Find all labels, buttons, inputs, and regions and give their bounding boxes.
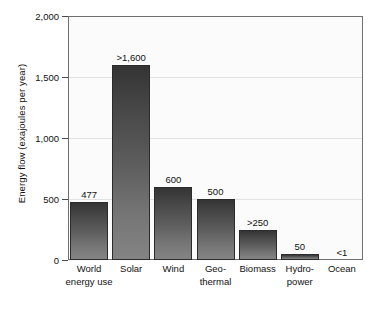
y-axis-tick	[62, 138, 68, 139]
gridline	[69, 77, 362, 78]
y-axis-tick	[62, 77, 68, 78]
x-axis-label-line: energy use	[64, 276, 114, 289]
x-axis-label-line: Ocean	[317, 263, 367, 276]
x-axis-label-line: thermal	[190, 276, 240, 289]
y-axis-tick-label: 1,500	[0, 72, 59, 83]
y-axis-tick-label: 0	[0, 255, 59, 266]
y-axis-tick	[62, 199, 68, 200]
plot-area	[68, 16, 363, 260]
y-axis-tick	[62, 260, 68, 261]
y-axis-tick	[62, 16, 68, 17]
y-axis-tick-label: 1,000	[0, 133, 59, 144]
gridline	[69, 199, 362, 200]
x-axis-label-line: power	[275, 276, 325, 289]
bar-chart: Energy flow (exajoules per year) 05001,0…	[0, 0, 375, 313]
gridline	[69, 138, 362, 139]
x-axis-label: Ocean	[317, 263, 367, 276]
y-axis-tick-label: 2,000	[0, 11, 59, 22]
y-axis-tick-label: 500	[0, 194, 59, 205]
